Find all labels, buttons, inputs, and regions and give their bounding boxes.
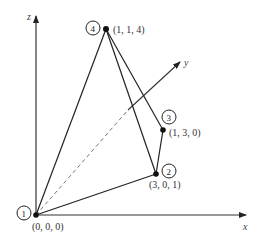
node-2-number: 2 [167, 167, 172, 177]
x-axis-label: x [242, 221, 248, 232]
node-1: 1 (0, 0, 0) [17, 206, 64, 233]
node-4-number: 4 [91, 24, 96, 34]
node-4: 4 (1, 1, 4) [86, 21, 145, 36]
y-axis-label: y [183, 57, 189, 68]
node-2-coords: (3, 0, 1) [149, 179, 181, 191]
node-1-coords: (0, 0, 0) [32, 221, 64, 233]
edge-1-4 [36, 29, 106, 215]
z-axis-label: z [26, 11, 31, 22]
node-3-number: 3 [167, 113, 172, 123]
node-3: 3 (1, 3, 0) [160, 110, 200, 139]
node-3-coords: (1, 3, 0) [169, 127, 201, 139]
tetrahedron-diagram: z x y 1 (0, 0, 0) 2 (3, 0, 1) 3 (1, 3, 0… [0, 0, 259, 244]
node-1-number: 1 [22, 209, 27, 219]
edge-4-3 [106, 29, 163, 130]
edge-3-2 [156, 130, 163, 174]
edge-1-2 [36, 174, 156, 215]
node-4-coords: (1, 1, 4) [113, 24, 145, 36]
y-axis [128, 62, 180, 110]
edge-4-2 [106, 29, 156, 174]
